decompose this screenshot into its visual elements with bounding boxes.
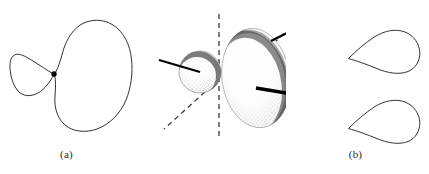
small-lobe-shape <box>10 54 54 95</box>
panel-b-drawing <box>143 0 286 148</box>
panel-b: (b) <box>143 0 286 174</box>
large-lobe-shape <box>55 20 132 131</box>
upper-right-bond <box>271 28 286 41</box>
panel-a: (a) <box>0 0 143 174</box>
lower-simplified-lobe-shape <box>349 100 420 143</box>
upper-simplified-lobe-shape <box>349 30 420 73</box>
panel-c-drawing <box>286 0 429 148</box>
panel-c: or (c) <box>286 0 429 174</box>
orbital-figure: (a) <box>0 0 429 174</box>
lower-left-axis <box>164 92 205 129</box>
node-dot <box>51 71 56 76</box>
panel-a-label: (a) <box>0 148 143 160</box>
panel-a-drawing <box>0 0 143 148</box>
small-sphere-shape <box>175 51 221 98</box>
